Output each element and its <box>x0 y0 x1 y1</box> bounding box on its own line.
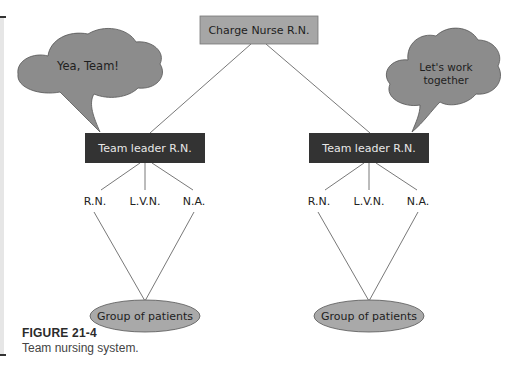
figure-label: FIGURE 21-4 <box>22 326 139 340</box>
connector-charge-to-left-leader <box>150 44 251 133</box>
speech-bubble-right: Let's work together <box>386 28 500 132</box>
connector-left-leader-na <box>152 163 193 190</box>
connector-right-na-patients <box>369 212 418 301</box>
connector-right-rn-patients <box>318 212 369 301</box>
team-members-left: R.N. L.V.N. N.A. <box>84 195 206 208</box>
member-right-na: N.A. <box>407 195 430 208</box>
speech-bubble-left: Yea, Team! <box>18 28 163 132</box>
member-right-rn: R.N. <box>308 195 330 208</box>
team-leader-left-label: Team leader R.N. <box>97 142 191 155</box>
member-left-lvn: L.V.N. <box>130 195 161 208</box>
connector-right-leader-na <box>376 163 417 190</box>
patients-left-label: Group of patients <box>97 310 193 323</box>
member-right-lvn: L.V.N. <box>354 195 385 208</box>
member-left-na: N.A. <box>183 195 206 208</box>
connector-left-rn-patients <box>94 212 145 301</box>
team-leader-left-node: Team leader R.N. <box>85 133 205 163</box>
charge-nurse-label: Charge Nurse R.N. <box>208 24 309 37</box>
patients-right-label: Group of patients <box>321 310 417 323</box>
team-leader-right-node: Team leader R.N. <box>309 133 429 163</box>
connector-left-leader-rn <box>101 163 140 190</box>
speech-bubble-right-text-line1: Let's work <box>419 61 473 73</box>
member-left-rn: R.N. <box>84 195 106 208</box>
team-members-right: R.N. L.V.N. N.A. <box>308 195 430 208</box>
connector-charge-to-right-leader <box>266 44 370 133</box>
speech-bubble-right-text-line2: together <box>423 74 469 86</box>
connector-left-na-patients <box>145 212 194 301</box>
charge-nurse-node: Charge Nurse R.N. <box>200 16 318 44</box>
team-nursing-diagram: Yea, Team! Let's work together Charge Nu… <box>0 0 507 367</box>
speech-bubble-left-text: Yea, Team! <box>56 59 119 73</box>
figure-caption-text: Team nursing system. <box>22 341 139 355</box>
figure-caption: FIGURE 21-4 Team nursing system. <box>22 326 139 355</box>
connector-right-leader-rn <box>325 163 364 190</box>
patients-right-node: Group of patients <box>314 300 424 332</box>
team-leader-right-label: Team leader R.N. <box>321 142 415 155</box>
